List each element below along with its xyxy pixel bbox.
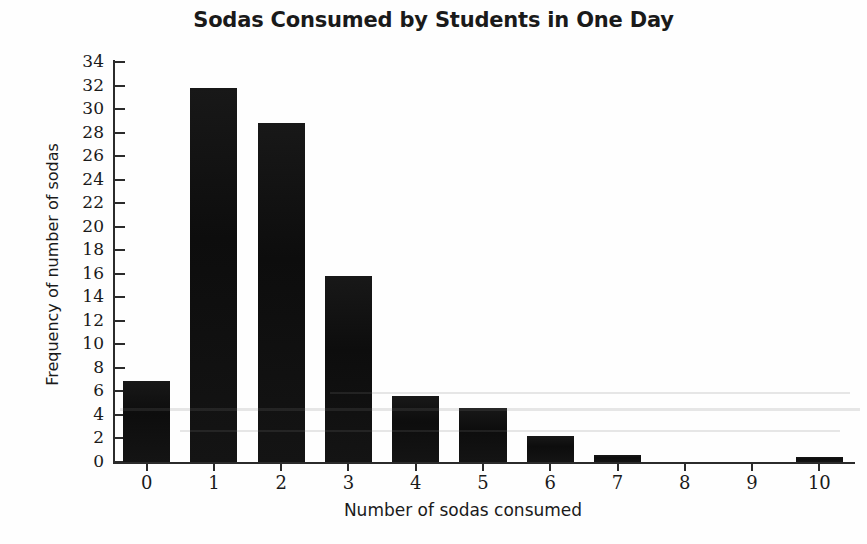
y-tick-label: 12 xyxy=(82,310,104,330)
x-tick-mark xyxy=(818,462,820,471)
x-tick-label: 7 xyxy=(588,472,648,493)
y-tick-label: 14 xyxy=(82,286,104,306)
bar-fill xyxy=(459,408,506,462)
bar xyxy=(190,88,237,462)
x-tick-label: 6 xyxy=(520,472,580,493)
x-tick-mark xyxy=(549,462,551,471)
bar xyxy=(594,455,641,462)
x-tick-mark xyxy=(482,462,484,471)
x-tick-mark xyxy=(213,462,215,471)
x-tick-mark xyxy=(347,462,349,471)
x-tick-mark xyxy=(617,462,619,471)
y-tick-label: 18 xyxy=(82,239,104,259)
bar xyxy=(459,408,506,462)
bar-fill xyxy=(123,381,170,462)
x-tick-label: 0 xyxy=(117,472,177,493)
bar-fill xyxy=(527,436,574,462)
y-tick-label: 24 xyxy=(82,169,104,189)
histogram-chart: Sodas Consumed by Students in One Day Fr… xyxy=(0,0,867,544)
bar xyxy=(796,457,843,462)
bar xyxy=(123,381,170,462)
bar xyxy=(527,436,574,462)
x-tick-label: 10 xyxy=(789,472,849,493)
y-tick-label: 22 xyxy=(82,192,104,212)
plot-area xyxy=(113,62,853,462)
x-axis-label: Number of sodas consumed xyxy=(113,500,813,520)
y-tick-label: 26 xyxy=(82,145,104,165)
x-tick-label: 4 xyxy=(386,472,446,493)
y-tick-label: 16 xyxy=(82,263,104,283)
x-tick-mark xyxy=(684,462,686,471)
x-axis-line xyxy=(113,462,855,464)
y-tick-label: 6 xyxy=(93,380,104,400)
bar-fill xyxy=(258,123,305,462)
y-tick-label: 20 xyxy=(82,216,104,236)
bar xyxy=(258,123,305,462)
x-tick-label: 1 xyxy=(184,472,244,493)
bar-fill xyxy=(796,457,843,462)
y-tick-label: 30 xyxy=(82,98,104,118)
bar-fill xyxy=(190,88,237,462)
y-tick-label: 10 xyxy=(82,333,104,353)
x-tick-label: 3 xyxy=(318,472,378,493)
x-tick-label: 5 xyxy=(453,472,513,493)
x-tick-mark xyxy=(280,462,282,471)
y-tick-label: 4 xyxy=(93,404,104,424)
bar-fill xyxy=(392,396,439,462)
chart-title: Sodas Consumed by Students in One Day xyxy=(0,8,867,32)
x-tick-label: 2 xyxy=(251,472,311,493)
y-tick-label: 2 xyxy=(93,427,104,447)
x-tick-mark xyxy=(415,462,417,471)
y-axis-label: Frequency of number of sodas xyxy=(43,100,62,430)
y-tick-label: 28 xyxy=(82,122,104,142)
bar-fill xyxy=(325,276,372,462)
y-tick-label: 32 xyxy=(82,75,104,95)
y-tick-label: 34 xyxy=(82,51,104,71)
x-tick-mark xyxy=(751,462,753,471)
x-tick-mark xyxy=(146,462,148,471)
x-tick-label: 9 xyxy=(722,472,782,493)
y-tick-label: 0 xyxy=(93,451,104,471)
bar xyxy=(325,276,372,462)
x-tick-label: 8 xyxy=(655,472,715,493)
bar xyxy=(392,396,439,462)
bar-fill xyxy=(594,455,641,462)
y-tick-label: 8 xyxy=(93,357,104,377)
